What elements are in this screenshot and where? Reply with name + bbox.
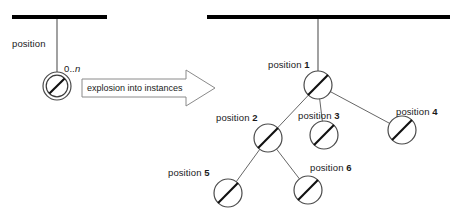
instance-node-1 [304, 71, 332, 99]
multiplicity-prefix: 0.. [64, 63, 75, 74]
multiplicity-variable: n [75, 63, 80, 74]
diagram-canvas: position 0..n explosion into instances p… [0, 0, 456, 218]
left-instance-node [43, 72, 71, 100]
node-1-label: position 1 [268, 60, 310, 70]
node-3-label: position 3 [298, 111, 340, 121]
node-6-label: position 6 [310, 163, 352, 173]
uml-explosion-diagram [0, 0, 456, 218]
node-5-label-prefix: position [168, 167, 202, 178]
node-2-label-prefix: position [216, 112, 250, 123]
instance-node-5 [214, 179, 242, 207]
node-4-label-prefix: position [396, 106, 430, 117]
node-1-label-prefix: position [268, 59, 302, 70]
instance-node-6 [294, 176, 322, 204]
instance-node-3 [310, 121, 338, 149]
left-association-label: position [12, 39, 46, 49]
explosion-arrow-label: explosion into instances [87, 84, 183, 93]
node-4-label: position 4 [396, 107, 438, 117]
node-5-label-number: 5 [204, 167, 209, 178]
node-3-label-prefix: position [298, 110, 332, 121]
node-5-label: position 5 [168, 168, 210, 178]
node-3-label-number: 3 [334, 110, 339, 121]
instance-node-2 [254, 124, 282, 152]
node-6-label-number: 6 [346, 162, 351, 173]
node-2-label: position 2 [216, 113, 258, 123]
instance-node-4 [388, 116, 416, 144]
left-multiplicity-label: 0..n [64, 64, 80, 74]
node-4-label-number: 4 [432, 106, 437, 117]
node-6-label-prefix: position [310, 162, 344, 173]
node-2-label-number: 2 [252, 112, 257, 123]
node-1-label-number: 1 [304, 59, 309, 70]
